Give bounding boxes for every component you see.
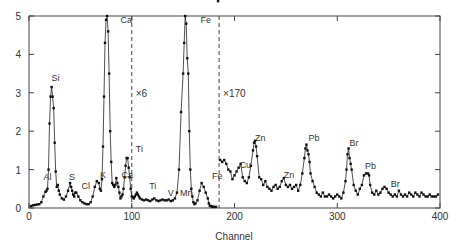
data-point (334, 195, 336, 197)
data-point (122, 188, 124, 190)
data-point (368, 174, 370, 176)
data-point (357, 193, 359, 195)
peak-label: Zn (255, 133, 266, 143)
scale-factor-label: ×170 (223, 88, 246, 99)
data-point (406, 195, 408, 197)
data-point (392, 195, 394, 197)
data-point (242, 176, 244, 178)
data-point (359, 188, 361, 190)
data-point (225, 163, 227, 165)
data-point (279, 186, 281, 188)
data-point (348, 157, 350, 159)
peak-label: Al (43, 172, 51, 182)
data-point (61, 197, 63, 199)
data-point (426, 195, 428, 197)
data-point (187, 72, 189, 74)
data-point (318, 193, 320, 195)
data-point (121, 193, 123, 195)
data-point (244, 180, 246, 182)
data-point (98, 182, 100, 184)
peak-label: Si (52, 73, 60, 83)
xrf-spectrum-chart: 0100200300400012345 ×6×170 AlSiSClKCaCaT… (0, 0, 464, 247)
data-point (126, 157, 128, 159)
data-point (153, 197, 155, 199)
data-point (233, 174, 235, 176)
data-point (213, 206, 215, 208)
data-point (109, 130, 111, 132)
data-point (168, 198, 170, 200)
peak-label: Ti (149, 181, 156, 191)
data-point (260, 178, 262, 180)
data-point (30, 205, 32, 207)
peak-label: S (69, 172, 75, 182)
data-point (217, 0, 219, 2)
data-point (183, 42, 185, 44)
data-point (92, 195, 94, 197)
data-point (176, 191, 178, 193)
data-point (379, 191, 381, 193)
data-point (410, 193, 412, 195)
data-point (420, 191, 422, 193)
data-point (36, 203, 38, 205)
peak-label: V (168, 188, 174, 198)
data-point (52, 107, 54, 109)
data-point (102, 145, 104, 147)
peak-label: Fe (201, 15, 212, 25)
data-point (174, 197, 176, 199)
peak-label: Cu (240, 160, 252, 170)
data-point (77, 195, 79, 197)
data-point (414, 191, 416, 193)
x-tick-label: 300 (329, 211, 346, 222)
data-point (207, 197, 209, 199)
data-point (305, 143, 307, 145)
y-tick-label: 1 (15, 165, 21, 176)
peak-label: Pb (365, 161, 376, 171)
data-point (338, 195, 340, 197)
data-point (429, 193, 431, 195)
data-point (141, 198, 143, 200)
data-point (47, 168, 49, 170)
peak-label: K (100, 170, 106, 180)
y-tick-label: 2 (15, 126, 21, 137)
data-series (30, 0, 439, 208)
data-point (377, 193, 379, 195)
data-point (53, 142, 55, 144)
data-point (188, 130, 190, 132)
data-point (289, 184, 291, 186)
data-point (258, 176, 260, 178)
data-point (352, 184, 354, 186)
peak-label: Zn (284, 170, 295, 180)
data-point (57, 184, 59, 186)
data-point (205, 191, 207, 193)
data-point (100, 190, 102, 192)
data-point (161, 198, 163, 200)
data-point (198, 190, 200, 192)
data-point (170, 200, 172, 202)
data-point (400, 193, 402, 195)
data-point (200, 182, 202, 184)
data-point (110, 161, 112, 163)
data-point (361, 184, 363, 186)
data-point (307, 153, 309, 155)
data-point (163, 199, 165, 201)
peak-label: Mn (180, 188, 193, 198)
data-point (75, 191, 77, 193)
data-point (270, 190, 272, 192)
data-point (139, 197, 141, 199)
data-point (248, 176, 250, 178)
data-point (272, 186, 274, 188)
data-point (332, 197, 334, 199)
data-point (324, 195, 326, 197)
data-point (363, 174, 365, 176)
peak-label: Ca (120, 15, 132, 25)
data-point (116, 182, 118, 184)
x-axis-label: Channel (215, 231, 252, 242)
x-tick-label: 400 (432, 211, 449, 222)
data-point (184, 15, 186, 17)
data-point (371, 191, 373, 193)
data-point (96, 180, 98, 182)
data-point (71, 190, 73, 192)
y-tick-label: 3 (15, 88, 21, 99)
data-point (435, 195, 437, 197)
data-point (262, 184, 264, 186)
